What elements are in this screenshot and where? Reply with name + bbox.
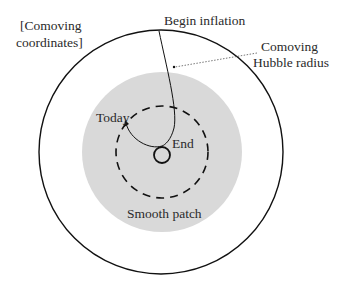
today-label: Today	[96, 110, 130, 125]
end-label: End	[172, 136, 194, 151]
hubble-radius-pointer	[175, 53, 257, 67]
smooth-patch-label: Smooth patch	[127, 206, 202, 221]
coordinates-label-line2: coordinates]	[16, 35, 83, 50]
coordinates-label-line1: [Comoving	[20, 18, 82, 33]
pointer-dot-icon	[173, 66, 175, 68]
inflation-diagram: [Comoving coordinates] Begin inflation C…	[0, 0, 345, 288]
hubble-radius-label-line1: Comoving	[261, 39, 318, 54]
hubble-radius-label-line2: Hubble radius	[253, 55, 329, 70]
begin-inflation-label: Begin inflation	[164, 13, 246, 28]
